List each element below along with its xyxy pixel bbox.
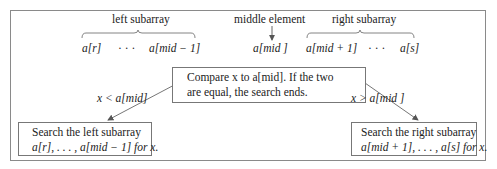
left-subarray-label: left subarray <box>112 13 170 26</box>
right-subarray-brace <box>307 30 414 38</box>
left-subarray-brace <box>82 30 195 38</box>
left-search-box: Search the left subarray a[r], . . . , a… <box>18 122 152 156</box>
right-search-line-2: a[mid + 1], . . . , a[s] for x. <box>361 140 476 155</box>
compare-line-1: Compare x to a[mid]. If the two <box>187 70 365 85</box>
array-element-first: a[r] <box>82 42 101 55</box>
middle-element-label: middle element <box>234 13 305 26</box>
right-ellipsis: · · · <box>368 42 385 55</box>
array-element-last: a[s] <box>400 42 419 55</box>
array-element-mid-minus-1: a[mid − 1] <box>149 42 200 55</box>
right-search-line-1: Search the right subarray <box>361 125 476 140</box>
left-condition-label: x < a[mid] <box>97 92 148 105</box>
left-ellipsis: · · · <box>118 42 135 55</box>
compare-box: Compare x to a[mid]. If the two are equa… <box>172 67 366 103</box>
array-element-mid: a[mid ] <box>253 42 288 55</box>
left-search-line-1: Search the left subarray <box>32 125 151 140</box>
compare-line-2: are equal, the search ends. <box>187 85 365 100</box>
array-element-mid-plus-1: a[mid + 1] <box>306 42 357 55</box>
left-search-line-2: a[r], . . . , a[mid − 1] for x. <box>32 140 151 155</box>
right-search-box: Search the right subarray a[mid + 1], . … <box>351 122 477 156</box>
right-condition-label: x > a[mid ] <box>351 92 404 105</box>
right-subarray-label: right subarray <box>332 13 396 26</box>
